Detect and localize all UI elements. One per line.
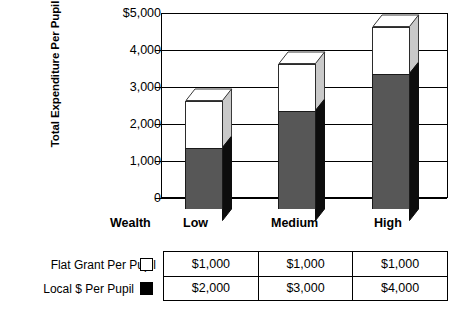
x-tick-label-medium: Medium <box>271 216 318 230</box>
bar-low-local-front <box>185 148 223 209</box>
legend-label-local: Local $ Per Pupil <box>43 282 134 296</box>
table-cell-local-low: $2,000 <box>164 276 258 300</box>
y-tick-label-0: 0 <box>71 191 161 205</box>
y-tick-label-2000: 2,000 <box>71 117 161 131</box>
y-tick-label-1000: 1,000 <box>71 154 161 168</box>
legend-row-local: Local $ Per Pupil <box>0 281 134 297</box>
bar-medium-local-front <box>278 111 316 209</box>
chart-figure: Total Expenditure Per Pupil $5,000 4,000… <box>0 0 457 309</box>
legend-row-flat-grant: Flat Grant Per Pupil <box>0 257 156 273</box>
table-cell-flat-grant-medium: $1,000 <box>258 252 352 276</box>
bar-high-local-side <box>409 62 420 222</box>
y-tick-label-3000: 3,000 <box>71 80 161 94</box>
bar-medium-local-side <box>315 99 326 222</box>
bar-high-local-front <box>372 74 410 209</box>
table-cell-local-medium: $3,000 <box>258 276 352 300</box>
plot-area <box>161 13 448 198</box>
bar-medium-grant-front <box>278 64 316 112</box>
y-axis-title: Total Expenditure Per Pupil <box>44 0 66 164</box>
legend-swatch-local <box>140 282 153 295</box>
bar-low-grant-front <box>185 101 223 149</box>
bar-high-grant-front <box>372 27 410 75</box>
table-cell-flat-grant-high: $1,000 <box>353 252 447 276</box>
bar-low-local-side <box>222 136 233 222</box>
table-cell-local-high: $4,000 <box>353 276 447 300</box>
legend-swatch-flat-grant <box>140 258 153 271</box>
x-axis-row-label: Wealth <box>110 216 151 230</box>
x-tick-label-low: Low <box>183 216 208 230</box>
data-table: $1,000 $1,000 $1,000 $2,000 $3,000 $4,00… <box>163 251 448 301</box>
x-tick-label-high: High <box>374 216 402 230</box>
y-tick-label-4000: 4,000 <box>71 43 161 57</box>
y-tick-label-5000: $5,000 <box>71 6 161 20</box>
table-row-local: $2,000 $3,000 $4,000 <box>164 276 447 300</box>
table-cell-flat-grant-low: $1,000 <box>164 252 258 276</box>
table-row-flat-grant: $1,000 $1,000 $1,000 <box>164 252 447 276</box>
